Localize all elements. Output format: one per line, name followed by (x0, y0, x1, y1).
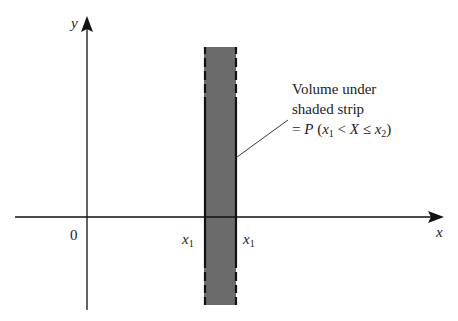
x-axis-label: x (436, 224, 443, 241)
strip-right-label: x1 (243, 231, 255, 252)
leader-line (237, 120, 288, 157)
y-axis-label: y (71, 15, 78, 32)
shaded-strip (204, 47, 236, 305)
annotation-line-2: shaded strip (292, 99, 391, 119)
volume-annotation: Volume under shaded strip = P (x1 < X ≤ … (292, 79, 391, 144)
annotation-line-1: Volume under (292, 79, 391, 99)
origin-label: 0 (70, 227, 78, 244)
strip-left-label: x1 (182, 231, 194, 252)
annotation-line-3: = P (x1 < X ≤ x2) (292, 119, 391, 144)
diagram-canvas (0, 0, 458, 321)
